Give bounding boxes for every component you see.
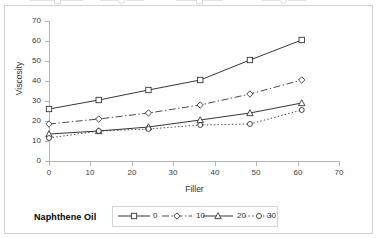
legend-key-10[interactable] xyxy=(162,213,192,219)
legend-label-30[interactable]: 30 xyxy=(267,212,276,220)
legend-label-20[interactable]: 20 xyxy=(237,212,246,220)
legend-marker-10 xyxy=(174,213,180,219)
legend-key-20[interactable] xyxy=(203,213,233,219)
legend-marker-30 xyxy=(257,214,262,219)
legend-marker-layer xyxy=(0,0,377,238)
legend-label-0[interactable]: 0 xyxy=(153,212,157,220)
legend-label-10[interactable]: 10 xyxy=(196,212,205,220)
legend-key-0[interactable] xyxy=(118,213,150,218)
legend-marker-0 xyxy=(131,213,136,218)
chart-figure: 70 60 50 40 30 20 10 0 0 10 20 30 40 50 … xyxy=(0,0,377,238)
